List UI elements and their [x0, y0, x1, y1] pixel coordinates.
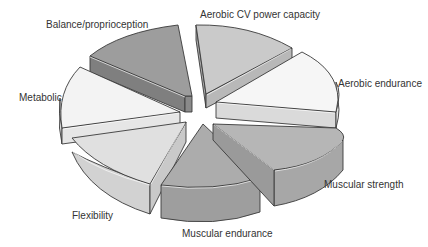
label-metabolic: Metabolic	[19, 92, 62, 103]
label-flexibility: Flexibility	[72, 210, 113, 221]
label-aerobic-endurance: Aerobic endurance	[338, 78, 422, 89]
label-muscular-strength: Muscular strength	[324, 179, 403, 190]
label-muscular-endurance: Muscular endurance	[182, 228, 273, 239]
pie-chart: Balance/proprioception Aerobic CV power …	[0, 0, 428, 247]
label-aerobic-cv-power-capacity: Aerobic CV power capacity	[200, 9, 320, 20]
label-balance-proprioception: Balance/proprioception	[46, 19, 148, 30]
